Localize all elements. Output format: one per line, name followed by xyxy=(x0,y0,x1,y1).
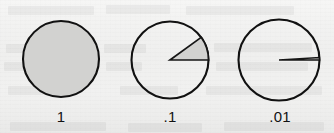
figure-root: 1 .1 .01 xyxy=(0,0,334,133)
pie-2-caption: .1 xyxy=(164,109,177,124)
pie-chart-2 xyxy=(132,22,209,99)
pie-1-full-disc xyxy=(23,21,99,97)
pie-1-caption: 1 xyxy=(57,109,66,124)
pie-3-caption: .01 xyxy=(269,109,290,124)
pie-2-sector-10-percent xyxy=(170,37,209,60)
pie-chart-1 xyxy=(23,21,99,97)
pie-3-sector-1-percent xyxy=(279,57,320,60)
pie-chart-3 xyxy=(239,20,320,101)
